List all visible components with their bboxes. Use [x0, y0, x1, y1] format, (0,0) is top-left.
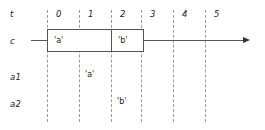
gridline-tick-2 — [111, 10, 112, 122]
timing-diagram: t c a1 a2 0 1 2 3 4 5 'a' 'b' 'a' 'b' — [0, 0, 265, 130]
event-a1-value: 'a' — [85, 70, 94, 79]
arrow-head-icon — [243, 37, 250, 43]
tick-label-2: 2 — [120, 9, 125, 19]
gridline-tick-4 — [173, 10, 174, 122]
gridline-tick-1 — [79, 10, 80, 122]
tick-label-0: 0 — [56, 9, 61, 19]
event-a2-value: 'b' — [117, 97, 126, 106]
signal-c-cell-b-label: 'b' — [112, 36, 127, 45]
gridline-tick-5 — [205, 10, 206, 122]
tick-label-3: 3 — [150, 9, 155, 19]
tick-label-5: 5 — [214, 9, 219, 19]
row-label-a1: a1 — [10, 72, 21, 82]
row-label-a2: a2 — [10, 99, 21, 109]
signal-c-cell-b: 'b' — [111, 29, 144, 52]
row-label-t: t — [10, 9, 14, 19]
tick-label-1: 1 — [88, 9, 93, 19]
gridline-tick-0 — [47, 10, 48, 122]
gridline-tick-3 — [141, 10, 142, 122]
signal-c-cell-a: 'a' — [47, 29, 112, 52]
signal-c-trail-line — [143, 40, 244, 41]
row-label-c: c — [10, 36, 15, 46]
tick-label-4: 4 — [182, 9, 187, 19]
signal-c-lead-line — [31, 40, 48, 41]
signal-c-cell-a-label: 'a' — [48, 36, 63, 45]
